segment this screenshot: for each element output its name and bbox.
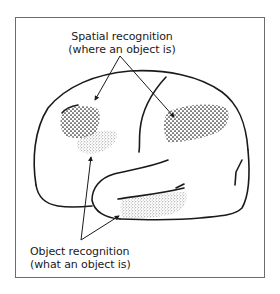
spatial-region-right <box>164 105 229 143</box>
object-label-line2: (what an object is) <box>30 258 130 271</box>
spatial-recognition-label: Spatial recognition (where an object is) <box>64 30 180 56</box>
central-sulcus <box>139 77 166 152</box>
object-recognition-label: Object recognition (what an object is) <box>30 245 130 271</box>
arrow-spatial-right <box>120 56 174 117</box>
frontal-base-outline <box>36 185 92 207</box>
arrow-spatial-left <box>95 56 120 100</box>
occipital-sulcus <box>235 160 242 185</box>
object-region-temporal <box>121 192 187 218</box>
object-label-line1: Object recognition <box>30 245 130 258</box>
spatial-label-line1: Spatial recognition <box>64 30 180 43</box>
spatial-label-line2: (where an object is) <box>64 43 180 56</box>
arrow-object-left <box>81 157 91 240</box>
arrow-object-right <box>81 216 119 240</box>
